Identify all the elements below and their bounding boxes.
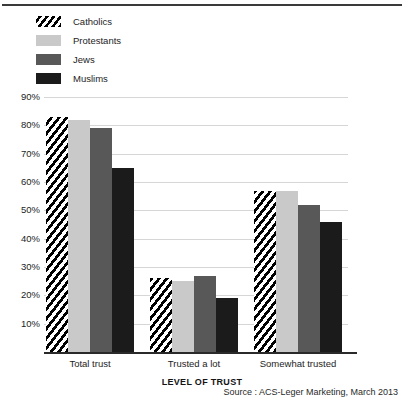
y-axis-tick-label: 70% [6, 149, 40, 159]
bar-catholics-trusted-a-lot [150, 278, 172, 352]
chart-legend: Catholics Protestants Jews Muslims [36, 12, 236, 88]
bar-protestants-trusted-a-lot [172, 281, 194, 352]
plot-area [44, 97, 348, 352]
y-axis-tick-label: 50% [6, 206, 40, 216]
chart-title: TRUST TOWARDS RELIGIOUS GROUPS [0, 0, 404, 2]
x-axis-title: LEVEL OF TRUST [0, 377, 404, 387]
y-axis-tick-label: 30% [6, 262, 40, 272]
legend-swatch-protestants [36, 35, 61, 46]
y-axis-tick-label: 10% [6, 319, 40, 329]
bar-jews-total-trust [90, 128, 112, 352]
y-axis-tick-label: 40% [6, 234, 40, 244]
x-axis-label-somewhat-trusted: Somewhat trusted [238, 359, 358, 369]
y-axis-tick-label: 60% [6, 177, 40, 187]
legend-label-protestants: Protestants [73, 36, 121, 46]
bar-catholics-total-trust [46, 117, 68, 352]
legend-item-catholics: Catholics [36, 12, 236, 31]
title-divider [2, 4, 402, 6]
legend-item-jews: Jews [36, 50, 236, 69]
legend-label-jews: Jews [73, 55, 95, 65]
legend-label-catholics: Catholics [73, 17, 112, 27]
gridline [44, 97, 348, 98]
x-axis-line [44, 352, 357, 354]
legend-item-muslims: Muslims [36, 69, 236, 88]
x-axis-label-total-trust: Total trust [30, 359, 150, 369]
bar-protestants-total-trust [68, 120, 90, 352]
bar-muslims-total-trust [112, 168, 134, 352]
x-axis-label-trusted-a-lot: Trusted a lot [134, 359, 254, 369]
y-axis-tick-label: 20% [6, 291, 40, 301]
source-note: Source : ACS-Leger Marketing, March 2013 [223, 387, 398, 397]
y-axis-tick-label: 80% [6, 121, 40, 131]
bar-protestants-somewhat-trusted [276, 191, 298, 353]
legend-swatch-muslims [36, 73, 61, 84]
bar-muslims-somewhat-trusted [320, 222, 342, 352]
legend-swatch-jews [36, 54, 61, 65]
legend-swatch-catholics [36, 16, 61, 27]
legend-label-muslims: Muslims [73, 74, 108, 84]
legend-item-protestants: Protestants [36, 31, 236, 50]
bar-jews-somewhat-trusted [298, 205, 320, 352]
bar-catholics-somewhat-trusted [254, 191, 276, 353]
y-axis-tick-label: 90% [6, 92, 40, 102]
bar-muslims-trusted-a-lot [216, 298, 238, 352]
bar-jews-trusted-a-lot [194, 276, 216, 353]
